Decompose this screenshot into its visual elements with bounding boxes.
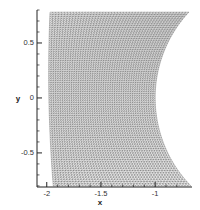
x-tick-label: -1.5	[94, 189, 107, 198]
x-tick-label: -1	[152, 189, 159, 198]
y-tick-label: 0.5	[24, 38, 34, 47]
x-tick-label: -2	[43, 189, 50, 198]
mesh-lines	[49, 12, 191, 186]
y-axis-title: y	[16, 94, 21, 103]
y-tick-label: -0.5	[21, 148, 34, 157]
x-axis-title: x	[98, 198, 103, 207]
y-tick-label: 0	[30, 93, 34, 102]
mesh-plot: -2-1.5-10.50-0.5 x y	[0, 0, 200, 210]
mesh-grid	[49, 12, 191, 186]
